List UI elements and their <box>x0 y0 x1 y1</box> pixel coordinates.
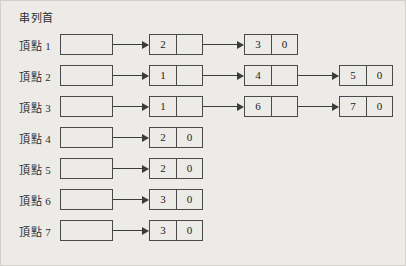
node-data-cell: 1 <box>150 66 176 85</box>
list-head-box-3 <box>60 96 113 117</box>
list-head-box-4 <box>60 127 113 148</box>
pointer-arrow-icon <box>113 168 148 169</box>
node-link-cell: 0 <box>366 97 392 116</box>
vertex-label-3: 頂點 3 <box>19 99 51 115</box>
list-node: 30 <box>149 189 203 210</box>
adjacency-row: 頂點 630 <box>1 189 406 211</box>
pointer-arrow-icon <box>203 44 243 45</box>
figure-caption: 串列首 <box>19 9 54 25</box>
list-head-box-6 <box>60 189 113 210</box>
vertex-label-5: 頂點 5 <box>19 161 51 177</box>
node-data-cell: 2 <box>150 128 176 147</box>
node-link-cell: 0 <box>176 190 202 209</box>
node-data-cell: 1 <box>150 97 176 116</box>
vertex-label-1: 頂點 1 <box>19 37 51 53</box>
adjacency-row: 頂點 420 <box>1 127 406 149</box>
node-link-cell <box>176 35 202 54</box>
list-node: 20 <box>149 127 203 148</box>
list-node: 1 <box>149 65 203 86</box>
node-link-cell <box>271 97 297 116</box>
adjacency-list-figure: 串列首 頂點 1230頂點 21450頂點 31670頂點 420頂點 520頂… <box>0 0 406 266</box>
list-head-box-7 <box>60 220 113 241</box>
list-node: 30 <box>244 34 298 55</box>
node-link-cell: 0 <box>271 35 297 54</box>
list-node: 1 <box>149 96 203 117</box>
list-node: 4 <box>244 65 298 86</box>
node-data-cell: 2 <box>150 35 176 54</box>
pointer-arrow-icon <box>113 75 148 76</box>
list-node: 50 <box>339 65 393 86</box>
node-data-cell: 2 <box>150 159 176 178</box>
list-node: 2 <box>149 34 203 55</box>
pointer-arrow-icon <box>203 75 243 76</box>
node-link-cell <box>271 66 297 85</box>
list-head-box-5 <box>60 158 113 179</box>
pointer-arrow-icon <box>298 106 338 107</box>
node-data-cell: 5 <box>340 66 366 85</box>
vertex-label-4: 頂點 4 <box>19 130 51 146</box>
pointer-arrow-icon <box>113 106 148 107</box>
pointer-arrow-icon <box>113 137 148 138</box>
pointer-arrow-icon <box>203 106 243 107</box>
adjacency-row: 頂點 31670 <box>1 96 406 118</box>
list-node: 30 <box>149 220 203 241</box>
adjacency-row: 頂點 520 <box>1 158 406 180</box>
pointer-arrow-icon <box>113 199 148 200</box>
list-node: 70 <box>339 96 393 117</box>
node-link-cell: 0 <box>366 66 392 85</box>
list-node: 20 <box>149 158 203 179</box>
node-data-cell: 3 <box>245 35 271 54</box>
pointer-arrow-icon <box>113 230 148 231</box>
list-head-box-1 <box>60 34 113 55</box>
node-link-cell <box>176 97 202 116</box>
vertex-label-7: 頂點 7 <box>19 223 51 239</box>
list-node: 6 <box>244 96 298 117</box>
node-link-cell <box>176 66 202 85</box>
node-data-cell: 3 <box>150 190 176 209</box>
list-head-box-2 <box>60 65 113 86</box>
node-data-cell: 6 <box>245 97 271 116</box>
node-link-cell: 0 <box>176 159 202 178</box>
node-data-cell: 4 <box>245 66 271 85</box>
node-link-cell: 0 <box>176 221 202 240</box>
adjacency-row: 頂點 21450 <box>1 65 406 87</box>
pointer-arrow-icon <box>113 44 148 45</box>
node-data-cell: 3 <box>150 221 176 240</box>
node-link-cell: 0 <box>176 128 202 147</box>
pointer-arrow-icon <box>298 75 338 76</box>
node-data-cell: 7 <box>340 97 366 116</box>
vertex-label-2: 頂點 2 <box>19 68 51 84</box>
adjacency-row: 頂點 1230 <box>1 34 406 56</box>
vertex-label-6: 頂點 6 <box>19 192 51 208</box>
adjacency-row: 頂點 730 <box>1 220 406 242</box>
